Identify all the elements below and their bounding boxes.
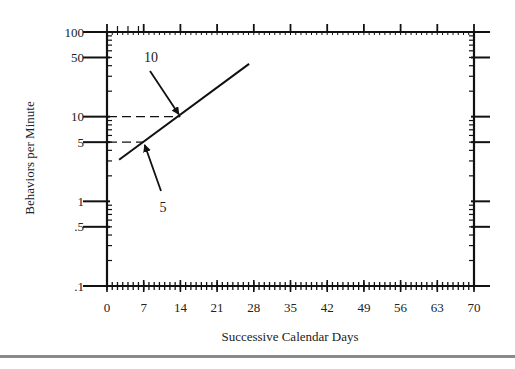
x-tick-label: 21 bbox=[211, 300, 224, 315]
annotation-arrow-icon bbox=[145, 145, 161, 191]
x-major-ticks bbox=[107, 24, 474, 292]
trend-line bbox=[119, 64, 249, 160]
y-minor-ticks bbox=[107, 36, 474, 261]
x-tick-label: 28 bbox=[247, 300, 260, 315]
x-minor-ticks bbox=[107, 32, 474, 290]
x-tick-labels: 07142128354249566370 bbox=[104, 300, 481, 315]
trend-line-path bbox=[119, 64, 249, 160]
y-tick-labels: .1.5151050100 bbox=[65, 25, 85, 294]
annotation-arrow-icon bbox=[150, 71, 179, 114]
x-tick-label: 63 bbox=[431, 300, 444, 315]
y-major-ticks bbox=[83, 32, 490, 286]
annotations: 105 bbox=[144, 50, 179, 215]
reference-dashed-lines bbox=[108, 117, 180, 142]
y-tick-label: 10 bbox=[71, 109, 84, 124]
x-tick-label: 56 bbox=[394, 300, 408, 315]
celeration-chart: .1.5151050100 07142128354249566370 105 S… bbox=[0, 0, 515, 369]
x-axis-title: Successive Calendar Days bbox=[221, 329, 358, 344]
x-tick-label: 49 bbox=[357, 300, 370, 315]
y-tick-label: 100 bbox=[65, 25, 85, 40]
annotation-label: 10 bbox=[144, 50, 158, 65]
y-tick-label: .1 bbox=[74, 279, 84, 294]
y-tick-label: .5 bbox=[74, 219, 84, 234]
y-axis-title: Behaviors per Minute bbox=[22, 101, 37, 215]
y-tick-label: 50 bbox=[71, 50, 84, 65]
y-tick-label: 5 bbox=[78, 135, 85, 150]
plot-frame bbox=[83, 31, 490, 287]
x-tick-label: 0 bbox=[104, 300, 111, 315]
x-tick-label: 42 bbox=[321, 300, 334, 315]
x-tick-label: 35 bbox=[284, 300, 297, 315]
x-tick-label: 14 bbox=[174, 300, 188, 315]
x-tick-label: 70 bbox=[468, 300, 481, 315]
x-tick-label: 7 bbox=[140, 300, 147, 315]
y-tick-label: 1 bbox=[78, 194, 85, 209]
page-bottom-rule bbox=[0, 355, 515, 358]
annotation-label: 5 bbox=[160, 200, 167, 215]
